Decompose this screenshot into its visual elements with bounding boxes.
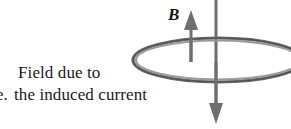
caption-line-1: Field due to <box>18 62 100 83</box>
coil-inner-stroke <box>136 41 291 80</box>
arrow-overlap-front <box>191 38 216 112</box>
current-loop-ellipse <box>133 38 291 82</box>
list-item-label: e. <box>0 84 8 105</box>
magnetic-field-label-B: B <box>168 5 179 25</box>
up-arrow-head <box>184 10 198 30</box>
caption-line-2: the induced current <box>14 84 147 105</box>
induced-current-field-figure: B e. Field due to the induced current <box>0 0 291 129</box>
